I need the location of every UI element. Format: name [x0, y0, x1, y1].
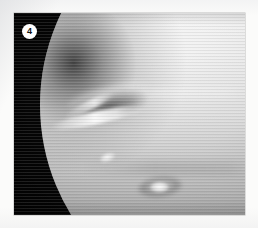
- page-sheet: 4: [0, 0, 258, 228]
- figure-number-badge: 4: [22, 24, 37, 39]
- planet-terminator-limb: [40, 13, 245, 215]
- planet-disk: [40, 13, 245, 215]
- figure-photo: 4: [14, 13, 245, 215]
